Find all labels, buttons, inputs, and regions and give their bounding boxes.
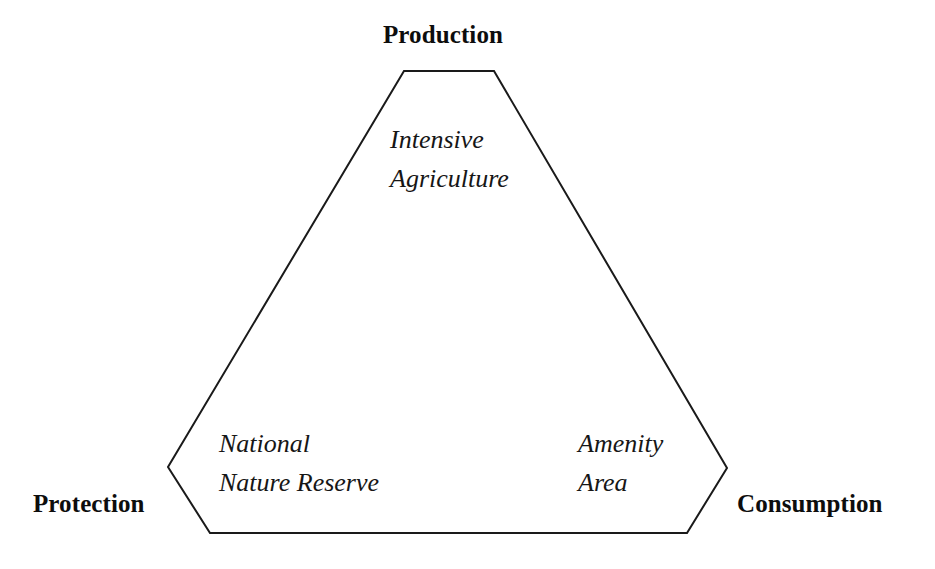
corner-label-protection: Protection	[33, 490, 145, 518]
corner-label-production: Production	[0, 21, 886, 49]
zone-label-amenity-area: Amenity Area	[578, 424, 663, 502]
zone-label-national-nature-reserve: National Nature Reserve	[219, 424, 379, 502]
zone-label-intensive-agriculture: Intensive Agriculture	[390, 120, 509, 198]
corner-label-consumption: Consumption	[737, 490, 883, 518]
diagram-canvas: Production Protection Consumption Intens…	[0, 0, 935, 569]
trapezoid-outline-svg	[0, 0, 935, 569]
